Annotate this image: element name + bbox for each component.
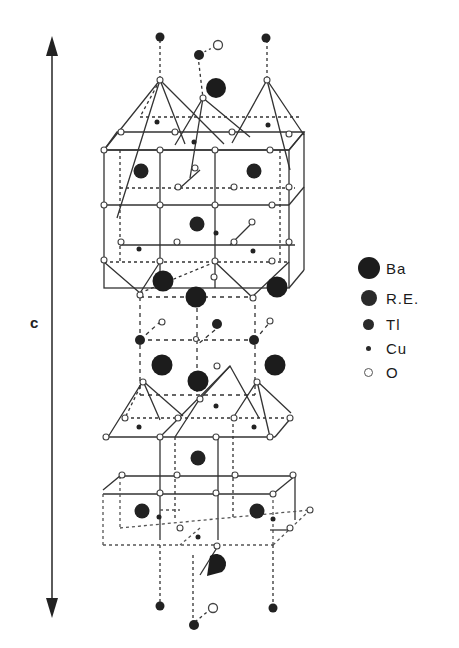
legend-label: Tl xyxy=(386,316,401,333)
legend-item-tl: Tl xyxy=(358,312,374,336)
legend-label: Ba xyxy=(386,260,406,277)
tl-atom-icon xyxy=(363,319,374,330)
re-atom-icon xyxy=(361,290,377,306)
structure-lines xyxy=(103,40,310,625)
cu-atom-icon xyxy=(366,346,371,351)
atoms xyxy=(101,33,313,631)
o-atom-icon xyxy=(364,368,373,377)
c-axis-label: c xyxy=(30,314,38,331)
legend-label: R.E. xyxy=(386,290,419,307)
legend-item-re: R.E. xyxy=(358,286,377,310)
legend-item-cu: Cu xyxy=(358,336,371,360)
c-axis-arrow xyxy=(46,36,58,618)
legend-label: O xyxy=(386,364,399,381)
legend-item-ba: Ba xyxy=(358,256,380,280)
legend-item-o: O xyxy=(358,360,373,384)
ba-atom-icon xyxy=(358,257,380,279)
legend-label: Cu xyxy=(386,340,407,357)
